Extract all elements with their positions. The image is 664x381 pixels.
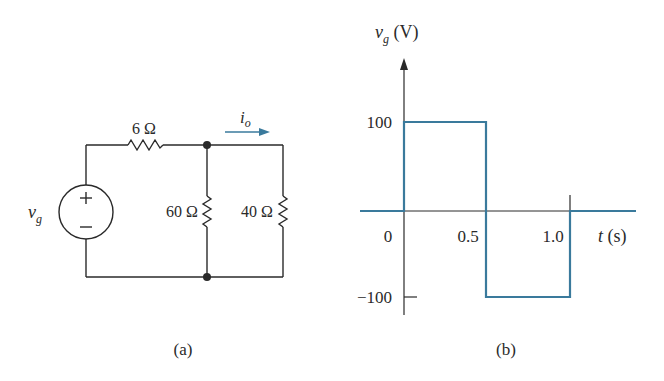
resistor-60ohm [203, 196, 211, 227]
x-tick-label-0-5: 0.5 [457, 227, 478, 246]
label-40ohm: 40 Ω [241, 203, 273, 220]
label-vg: vg [28, 202, 42, 226]
x-tick-label-1-0: 1.0 [542, 227, 563, 246]
label-60ohm: 60 Ω [166, 203, 198, 220]
vg-waveform [360, 122, 636, 297]
y-tick-label-100: 100 [367, 113, 393, 132]
x-axis-label: t (s) [598, 226, 627, 247]
x-tick-label-0: 0 [384, 227, 393, 246]
y-tick-label-neg100: −100 [357, 288, 392, 307]
node-top [203, 141, 211, 149]
label-io: io [240, 108, 251, 130]
caption-b: (b) [496, 340, 516, 359]
figure-canvas: 6 Ω 60 Ω 40 Ω vg io (a) 100 −100 0 0.5 1… [0, 0, 664, 381]
y-axis-arrow-icon [400, 58, 408, 70]
waveform-chart: 100 −100 0 0.5 1.0 vg (V) t (s) (b) [357, 22, 636, 359]
resistor-40ohm [279, 196, 287, 227]
node-bottom [203, 273, 211, 281]
caption-a: (a) [174, 340, 193, 359]
label-6ohm: 6 Ω [132, 120, 156, 137]
resistor-6ohm [128, 140, 163, 150]
y-axis-label: vg (V) [375, 22, 419, 46]
